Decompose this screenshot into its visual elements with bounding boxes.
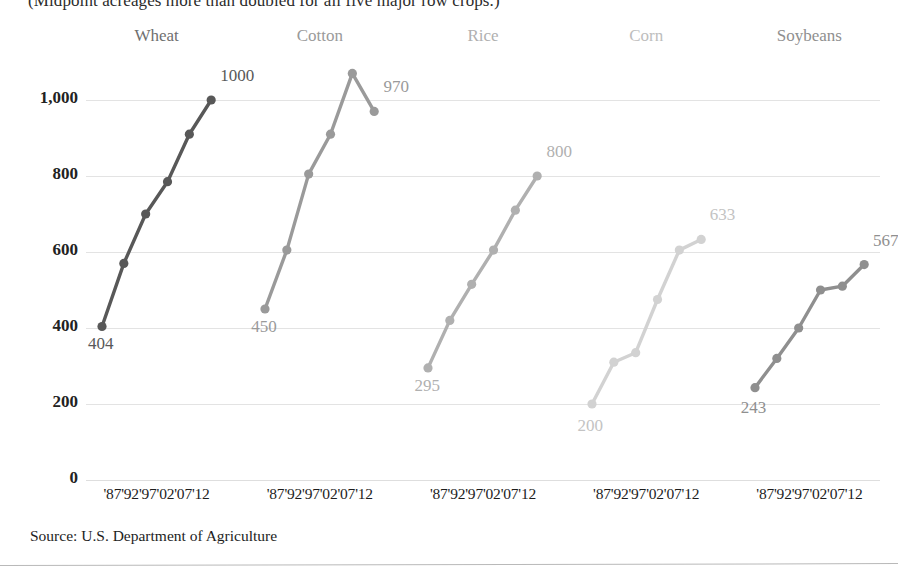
- panel-corn: Corn633200'87'92'97'02'07'12: [576, 62, 717, 480]
- series-line: [428, 176, 537, 368]
- data-point: [282, 246, 291, 255]
- x-ticks-wheat: '87'92'97'02'07'12: [86, 485, 227, 503]
- start-value-label-rice: 295: [414, 376, 440, 396]
- y-tick-1000: 1,000: [2, 88, 78, 108]
- series-line: [102, 100, 211, 326]
- x-ticks-corn: '87'92'97'02'07'12: [576, 485, 717, 503]
- data-point: [370, 107, 379, 116]
- series-wheat: [86, 62, 227, 480]
- data-point: [261, 304, 270, 313]
- start-value-label-soybeans: 243: [741, 398, 767, 418]
- data-point: [533, 171, 542, 180]
- data-point: [348, 69, 357, 78]
- data-point: [794, 323, 803, 332]
- panel-title-corn: Corn: [576, 26, 717, 46]
- panel-wheat: Wheat1000404'87'92'97'02'07'12: [86, 62, 227, 480]
- series-line: [755, 265, 864, 388]
- y-tick-600: 600: [2, 240, 78, 260]
- data-point: [185, 130, 194, 139]
- data-point: [97, 322, 106, 331]
- data-point: [587, 399, 596, 408]
- data-point: [141, 209, 150, 218]
- data-point: [163, 177, 172, 186]
- data-point: [859, 260, 868, 269]
- data-point: [326, 130, 335, 139]
- y-tick-200: 200: [2, 392, 78, 412]
- panel-title-cotton: Cotton: [249, 26, 390, 46]
- series-rice: [412, 62, 553, 480]
- data-point: [674, 246, 683, 255]
- start-value-label-wheat: 404: [88, 334, 114, 354]
- start-value-label-cotton: 450: [251, 317, 277, 337]
- end-value-label-soybeans: 567: [873, 231, 898, 251]
- data-point: [424, 363, 433, 372]
- data-point: [489, 246, 498, 255]
- chart-figure: (Midpoint acreages more than doubled for…: [0, 0, 898, 573]
- data-point: [511, 206, 520, 215]
- plot-area: 1,0008006004002000 Wheat1000404'87'92'97…: [86, 62, 880, 480]
- data-point: [696, 235, 705, 244]
- series-line: [265, 73, 374, 309]
- end-value-label-rice: 800: [547, 142, 573, 162]
- source-note: Source: U.S. Department of Agriculture: [30, 527, 277, 545]
- data-point: [653, 295, 662, 304]
- footer-rule: [0, 563, 898, 566]
- data-point: [119, 259, 128, 268]
- end-value-label-corn: 633: [710, 205, 736, 225]
- start-value-label-corn: 200: [578, 416, 604, 436]
- gridline-0: [86, 480, 880, 481]
- panel-rice: Rice800295'87'92'97'02'07'12: [412, 62, 553, 480]
- data-point: [446, 316, 455, 325]
- data-point: [772, 354, 781, 363]
- series-cotton: [249, 62, 390, 480]
- y-tick-400: 400: [2, 316, 78, 336]
- x-ticks-rice: '87'92'97'02'07'12: [412, 485, 553, 503]
- x-ticks-cotton: '87'92'97'02'07'12: [249, 485, 390, 503]
- panel-title-rice: Rice: [412, 26, 553, 46]
- data-point: [609, 358, 618, 367]
- data-point: [207, 95, 216, 104]
- x-ticks-soybeans: '87'92'97'02'07'12: [739, 485, 880, 503]
- panel-soybeans: Soybeans567243'87'92'97'02'07'12: [739, 62, 880, 480]
- y-tick-0: 0: [2, 468, 78, 488]
- chart-kicker: (Midpoint acreages more than doubled for…: [28, 0, 500, 11]
- panel-title-wheat: Wheat: [86, 26, 227, 46]
- data-point: [631, 348, 640, 357]
- panel-cotton: Cotton970450'87'92'97'02'07'12: [249, 62, 390, 480]
- data-point: [816, 285, 825, 294]
- data-point: [304, 170, 313, 179]
- data-point: [838, 282, 847, 291]
- data-point: [750, 383, 759, 392]
- data-point: [467, 280, 476, 289]
- panel-title-soybeans: Soybeans: [739, 26, 880, 46]
- end-value-label-cotton: 970: [383, 77, 409, 97]
- y-tick-800: 800: [2, 164, 78, 184]
- series-line: [592, 239, 701, 404]
